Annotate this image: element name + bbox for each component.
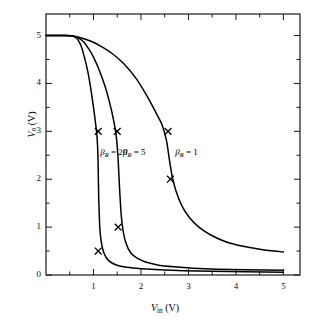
- x-axis-title: Vin (V): [110, 302, 220, 315]
- plot-canvas: [0, 0, 319, 323]
- y-tick-label: 4: [26, 78, 41, 87]
- y-axis-title: Vo (V): [26, 94, 39, 154]
- figure-voltage-transfer-characteristic: 012345 12345 βR = 20βR = 5βR = 1 Vo (V) …: [0, 0, 319, 323]
- x-tick-label: 5: [273, 282, 293, 291]
- equals-sign: =: [134, 147, 139, 157]
- curve-label-beta1: βR = 1: [175, 147, 198, 158]
- x-tick-label: 3: [178, 282, 198, 291]
- x-tick-label: 4: [226, 282, 246, 291]
- beta-subscript: R: [180, 150, 184, 157]
- equals-sign: =: [186, 147, 191, 157]
- beta-value: 1: [193, 147, 198, 157]
- y-tick-label: 2: [26, 174, 41, 183]
- beta-subscript: R: [105, 150, 109, 157]
- curve-label-beta5: βR = 5: [123, 147, 146, 158]
- x-tick-label: 1: [83, 282, 103, 291]
- y-tick-label: 0: [26, 270, 41, 279]
- beta-value: 5: [141, 147, 146, 157]
- y-tick-label: 1: [26, 222, 41, 231]
- beta-subscript: R: [127, 150, 131, 157]
- y-tick-label: 5: [26, 31, 41, 40]
- x-tick-label: 2: [131, 282, 151, 291]
- equals-sign: =: [111, 147, 116, 157]
